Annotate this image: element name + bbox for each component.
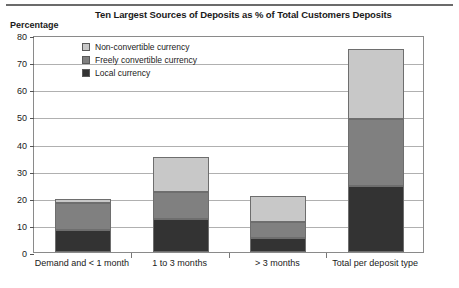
y-axis-tick <box>30 254 34 255</box>
chart-title: Ten Largest Sources of Deposits as % of … <box>95 9 385 20</box>
bar-group <box>250 35 306 252</box>
bar-segment <box>348 186 404 252</box>
bar-segment <box>55 203 111 230</box>
y-axis-tick-label: 60 <box>17 86 27 96</box>
x-axis-tick-label: Total per deposit type <box>332 258 418 268</box>
legend-swatch-icon <box>82 56 90 64</box>
legend-swatch-icon <box>82 69 90 77</box>
bar-segment <box>153 157 209 192</box>
x-axis-tick-label: > 3 months <box>255 258 300 268</box>
y-axis-tick-label: 40 <box>17 141 27 151</box>
legend-item: Freely convertible currency <box>82 55 197 65</box>
header-rule <box>6 4 453 6</box>
bar-segment <box>55 199 111 203</box>
y-axis-tick-label: 50 <box>17 113 27 123</box>
chart-figure: Ten Largest Sources of Deposits as % of … <box>0 0 459 288</box>
chart-legend: Non-convertible currencyFreely convertib… <box>82 42 197 78</box>
bar-segment <box>348 119 404 185</box>
y-axis-tick-label: 10 <box>17 222 27 232</box>
x-axis-tick-label: Demand and < 1 month <box>35 258 129 268</box>
x-axis-tick <box>131 253 132 258</box>
legend-item: Non-convertible currency <box>82 42 197 52</box>
y-axis-tick-label: 70 <box>17 59 27 69</box>
bar-segment <box>55 230 111 252</box>
bar-segment <box>348 49 404 120</box>
bar-segment <box>153 219 209 252</box>
legend-item-label: Local currency <box>95 68 150 78</box>
bar-segment <box>250 222 306 238</box>
legend-item-label: Freely convertible currency <box>95 55 197 65</box>
bar-group <box>348 35 404 252</box>
x-axis-tick <box>229 253 230 258</box>
x-axis-labels: Demand and < 1 month1 to 3 months> 3 mon… <box>33 258 424 272</box>
legend-item: Local currency <box>82 68 197 78</box>
legend-swatch-icon <box>82 43 90 51</box>
x-axis-tick-label: 1 to 3 months <box>152 258 207 268</box>
x-axis-tick <box>326 253 327 258</box>
bar-segment <box>250 238 306 252</box>
y-axis-tick-label: 30 <box>17 168 27 178</box>
y-axis-caption: Percentage <box>10 20 59 30</box>
y-axis-tick-label: 80 <box>17 32 27 42</box>
y-axis-tick-label: 0 <box>22 249 27 259</box>
y-axis-tick-label: 20 <box>17 195 27 205</box>
bar-segment <box>250 196 306 222</box>
legend-item-label: Non-convertible currency <box>95 42 189 52</box>
bar-segment <box>153 192 209 219</box>
